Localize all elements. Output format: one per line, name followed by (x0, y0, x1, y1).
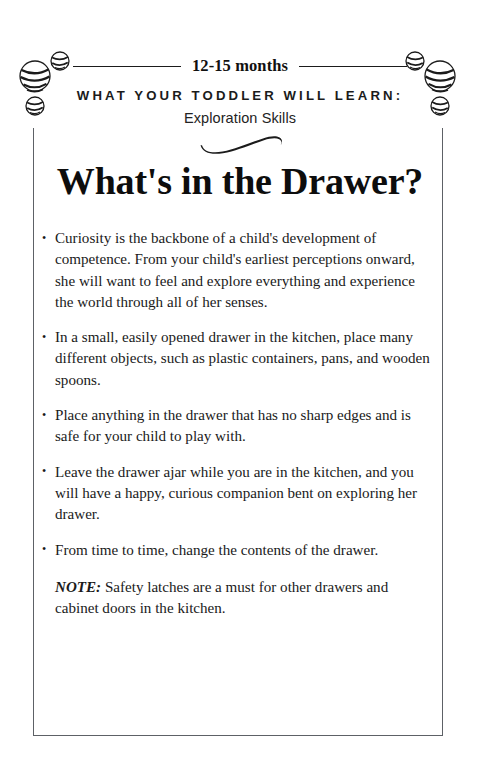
note-text: Safety latches are a must for other draw… (55, 579, 388, 616)
page-border-bottom (33, 735, 443, 736)
header-rule-left (73, 66, 181, 67)
kicker-heading: WHAT YOUR TODDLER WILL LEARN: (0, 88, 480, 103)
page-card: 12-15 months WHAT YOUR TODDLER WILL LEAR… (0, 0, 480, 763)
page-title: What's in the Drawer? (0, 162, 480, 200)
tips-list: Curiosity is the backbone of a child's d… (42, 228, 434, 561)
note-label: NOTE: (55, 579, 101, 595)
list-item: From time to time, change the contents o… (42, 540, 434, 561)
page-border-left (33, 128, 34, 736)
list-item: Leave the drawer ajar while you are in t… (42, 462, 434, 526)
swash-flourish-icon (196, 134, 284, 158)
body-content: Curiosity is the backbone of a child's d… (42, 228, 434, 635)
list-item: In a small, easily opened drawer in the … (42, 327, 434, 391)
header-rule-right (299, 66, 407, 67)
age-range-header: 12-15 months (0, 56, 480, 76)
kicker-subheading: Exploration Skills (0, 110, 480, 126)
age-range-label: 12-15 months (192, 56, 288, 76)
list-item: Curiosity is the backbone of a child's d… (42, 228, 434, 313)
list-item: Place anything in the drawer that has no… (42, 405, 434, 448)
safety-note: NOTE: Safety latches are a must for othe… (42, 577, 434, 620)
page-border-right (442, 128, 443, 736)
